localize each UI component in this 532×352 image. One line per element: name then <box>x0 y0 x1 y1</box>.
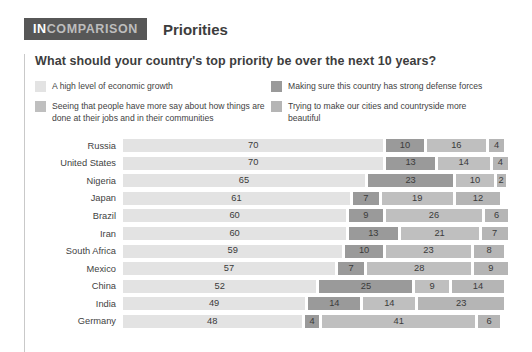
legend-item-more-say: Seeing that people have more say about h… <box>35 101 267 124</box>
chart-bar-value: 10 <box>470 176 480 185</box>
chart-bar-value: 23 <box>456 299 466 308</box>
chart-row: China5225914 <box>35 279 521 294</box>
chart-bar-value: 6 <box>494 211 499 220</box>
chart-row-label: Nigeria <box>35 176 123 186</box>
chart-row-bars: 49141423 <box>123 297 521 310</box>
chart-bar-segment: 7 <box>353 192 379 205</box>
chart-bar-value: 41 <box>394 317 404 326</box>
chart-bar-value: 25 <box>361 282 371 291</box>
legend-label-beautiful: Trying to make our cities and countrysid… <box>288 101 485 124</box>
chart-row-label: United States <box>35 158 123 168</box>
chart-bar-value: 7 <box>348 264 353 273</box>
chart-bar-segment: 10 <box>345 245 382 258</box>
chart-bar-segment: 10 <box>456 174 493 187</box>
chart-bar-segment: 13 <box>349 227 397 240</box>
chart-row: Mexico577289 <box>35 261 521 276</box>
chart-bar-segment: 23 <box>368 174 454 187</box>
chart-bar-segment: 9 <box>415 280 448 293</box>
chart-bar-value: 14 <box>459 158 469 167</box>
chart-bar-value: 8 <box>486 246 491 255</box>
chart-bar-value: 14 <box>473 282 483 291</box>
chart-bar-value: 60 <box>229 211 239 220</box>
page-title: Priorities <box>163 22 228 37</box>
chart-bar-value: 16 <box>451 141 461 150</box>
legend-item-beautiful: Trying to make our cities and countrysid… <box>271 101 485 124</box>
chart-bar-value: 4 <box>309 317 314 326</box>
chart-bar-segment: 49 <box>123 297 305 310</box>
chart-bar-segment: 26 <box>386 209 483 222</box>
chart-row-bars: 5225914 <box>123 280 521 293</box>
legend-label-defense: Making sure this country has strong defe… <box>288 81 482 92</box>
chart-bar-segment: 48 <box>123 315 302 328</box>
chart-row: Brazil609266 <box>35 208 521 223</box>
legend-column-right: Making sure this country has strong defe… <box>267 81 485 133</box>
content-panel: What should your country's top priority … <box>24 54 521 329</box>
chart-bar-value: 28 <box>414 264 424 273</box>
chart-bar-segment: 14 <box>308 297 360 310</box>
chart-bar-segment: 65 <box>123 174 365 187</box>
chart-bar-value: 23 <box>405 176 415 185</box>
chart-bar-segment: 25 <box>319 280 412 293</box>
chart-row-bars: 6171912 <box>123 192 521 205</box>
chart-bar-segment: 8 <box>474 245 504 258</box>
chart-bar-segment: 12 <box>456 192 501 205</box>
chart-bar-segment: 7 <box>338 262 364 275</box>
chart-bar-value: 12 <box>473 194 483 203</box>
legend-label-economic-growth: A high level of economic growth <box>52 81 173 92</box>
chart-bar-segment: 9 <box>349 209 382 222</box>
chart-row-label: Japan <box>35 193 123 203</box>
chart-bar-value: 9 <box>430 282 435 291</box>
chart-bar-value: 7 <box>363 194 368 203</box>
chart-bar-segment: 9 <box>474 262 507 275</box>
chart-bar-value: 19 <box>412 194 422 203</box>
chart-bar-value: 13 <box>405 158 415 167</box>
chart-bar-value: 7 <box>492 229 497 238</box>
chart-bar-segment: 70 <box>123 157 383 170</box>
chart-bar-value: 52 <box>215 282 225 291</box>
chart-bar-segment: 60 <box>123 227 346 240</box>
chart-bar-value: 6 <box>487 317 492 326</box>
chart-bar-value: 2 <box>498 176 503 185</box>
chart-bar-segment: 16 <box>427 139 487 152</box>
chart-row-bars: 6013217 <box>123 227 521 240</box>
legend-label-more-say: Seeing that people have more say about h… <box>52 101 267 124</box>
chart-bar-segment: 6 <box>478 315 500 328</box>
chart-bar-segment: 70 <box>123 139 383 152</box>
brand-prefix: IN <box>33 22 47 36</box>
legend-item-economic-growth: A high level of economic growth <box>35 81 267 92</box>
chart-row-bars: 7010164 <box>123 139 521 152</box>
chart-row-label: Mexico <box>35 264 123 274</box>
chart-bar-value: 14 <box>384 299 394 308</box>
chart-bar-value: 10 <box>400 141 410 150</box>
chart-bar-segment: 28 <box>367 262 471 275</box>
chart-row-label: South Africa <box>35 246 123 256</box>
brand-badge: INCOMPARISON <box>24 18 147 41</box>
chart-bar-value: 13 <box>368 229 378 238</box>
chart-bar-value: 14 <box>329 299 339 308</box>
stacked-bar-chart: Russia7010164United States7013144Nigeria… <box>35 138 521 329</box>
chart-legend: A high level of economic growth Seeing t… <box>35 81 521 133</box>
brand-suffix: COMPARISON <box>47 22 138 36</box>
chart-bar-value: 61 <box>231 194 241 203</box>
chart-row-label: India <box>35 299 123 309</box>
chart-row: Germany484416 <box>35 314 521 329</box>
chart-bar-segment: 14 <box>438 157 490 170</box>
chart-row-bars: 7013144 <box>123 157 521 170</box>
chart-bar-segment: 41 <box>322 315 475 328</box>
legend-swatch-beautiful-icon <box>271 101 282 112</box>
chart-bar-value: 9 <box>488 264 493 273</box>
chart-row-bars: 6523102 <box>123 174 521 187</box>
chart-bar-segment: 61 <box>123 192 350 205</box>
chart-row-label: Russia <box>35 141 123 151</box>
chart-bar-value: 70 <box>248 141 258 150</box>
chart-row-bars: 609266 <box>123 209 521 222</box>
chart-bar-value: 10 <box>359 246 369 255</box>
chart-row-label: China <box>35 281 123 291</box>
chart-bar-segment: 10 <box>386 139 423 152</box>
chart-row-label: Brazil <box>35 211 123 221</box>
legend-item-defense: Making sure this country has strong defe… <box>271 81 485 92</box>
chart-bar-value: 65 <box>239 176 249 185</box>
chart-bar-segment: 7 <box>482 227 508 240</box>
chart-bar-segment: 23 <box>386 245 472 258</box>
chart-row: South Africa5910238 <box>35 244 521 259</box>
